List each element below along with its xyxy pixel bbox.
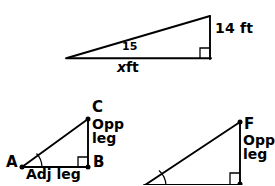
triangle-abc-adjacent-leg-label: Adj leg xyxy=(26,167,81,181)
triangle-abc-opposite-leg-label: Oppleg xyxy=(92,117,124,146)
top-triangle-group xyxy=(66,16,211,59)
vertex-dot-a xyxy=(20,165,25,170)
triangle-def-group xyxy=(144,120,243,186)
opp2-line-2: leg xyxy=(243,146,267,162)
triangle-def-hypotenuse xyxy=(145,122,240,185)
top-triangle-hypotenuse xyxy=(67,16,210,58)
vertex-label-f: F xyxy=(244,117,254,132)
vertex-dot-e xyxy=(238,182,243,186)
vertex-dot-f xyxy=(238,120,243,125)
top-triangle-right-angle-icon xyxy=(200,48,210,58)
opp-line-2: leg xyxy=(92,130,116,146)
vertex-label-c: C xyxy=(92,100,103,115)
top-triangle-angle-label: 15 xyxy=(122,41,137,52)
top-triangle-height-label: 14 ft xyxy=(215,21,253,35)
vertex-label-b: B xyxy=(93,155,104,170)
geometry-worksheet-figure: 15 14 ft xft A B C Oppleg Adj leg F Oppl… xyxy=(0,0,275,185)
vertex-dot-c xyxy=(86,117,91,122)
vertex-label-a: A xyxy=(6,155,18,170)
triangle-abc-group xyxy=(20,117,91,170)
vertex-dot-b xyxy=(86,165,91,170)
base-variable: x xyxy=(117,59,126,75)
triangle-def-opposite-leg-label: Oppleg xyxy=(243,133,275,162)
base-unit: ft xyxy=(126,59,139,75)
top-triangle-base-label: xft xyxy=(117,60,139,74)
